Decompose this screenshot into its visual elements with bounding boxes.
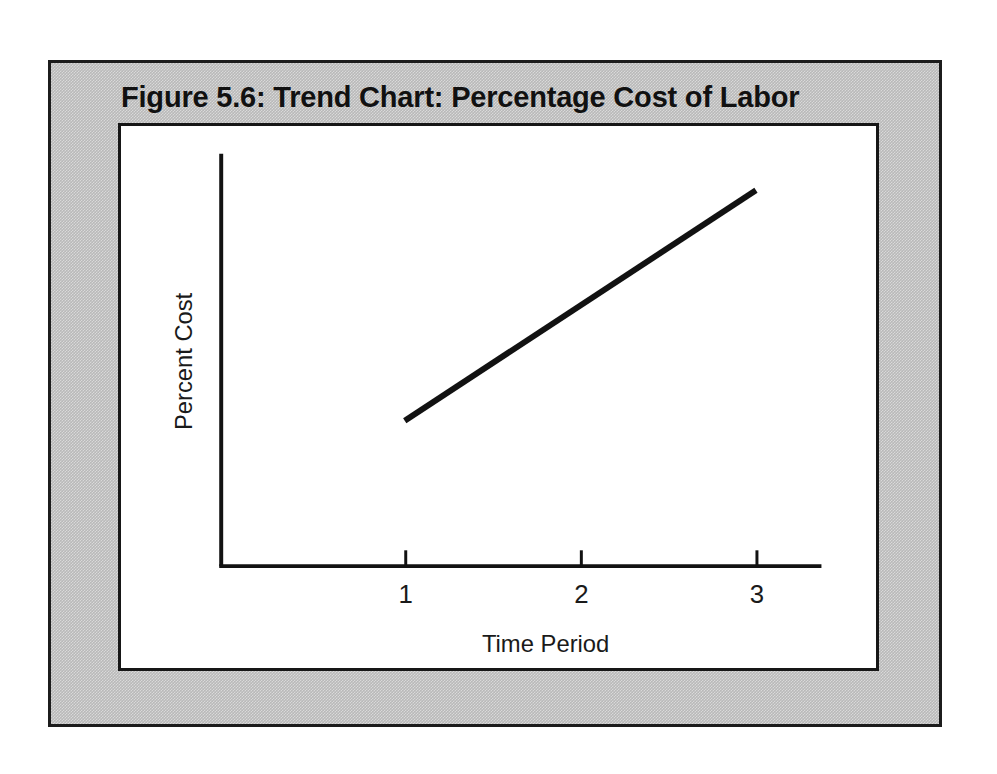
plot-panel: 1 2 3 Time Period Percent Cost: [118, 123, 879, 671]
x-axis-tick-label-3: 3: [750, 580, 764, 608]
figure-title: Figure 5.6: Trend Chart: Percentage Cost…: [121, 81, 799, 114]
figure-root: Figure 5.6: Trend Chart: Percentage Cost…: [0, 0, 997, 774]
trend-chart-svg: 1 2 3 Time Period Percent Cost: [121, 126, 876, 668]
figure-frame: Figure 5.6: Trend Chart: Percentage Cost…: [48, 60, 942, 727]
x-axis-title: Time Period: [482, 630, 609, 657]
trend-line-series-1: [405, 190, 756, 420]
x-axis-tick-label-2: 2: [574, 580, 588, 608]
x-axis-tick-label-1: 1: [399, 580, 413, 608]
y-axis-title: Percent Cost: [170, 292, 197, 430]
